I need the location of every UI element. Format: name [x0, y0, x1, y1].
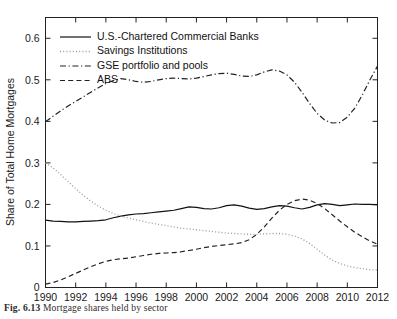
y-tick-label: 0.2 [25, 198, 40, 210]
y-tick-label: 0.5 [25, 74, 40, 86]
series-line [46, 66, 378, 123]
x-axis-ticks [46, 18, 378, 288]
figure-caption-label: Fig. 6.13 [4, 303, 40, 313]
figure-container: 00.10.20.30.40.50.6 19901992199419961998… [0, 0, 397, 319]
legend-label: Savings Institutions [97, 44, 187, 56]
x-axis-tick-labels: 1990199219941996199820002002200420062008… [34, 291, 390, 303]
x-tick-label: 1990 [34, 291, 58, 303]
legend-label: U.S.-Chartered Commercial Banks [97, 30, 259, 42]
x-tick-label: 1992 [64, 291, 88, 303]
series-line [46, 204, 378, 222]
x-tick-label: 2002 [215, 291, 239, 303]
line-chart: 00.10.20.30.40.50.6 19901992199419961998… [0, 0, 397, 319]
x-tick-label: 1994 [94, 291, 118, 303]
series-line [46, 163, 378, 270]
chart-legend: U.S.-Chartered Commercial BanksSavings I… [60, 30, 259, 86]
x-tick-label: 2004 [245, 291, 269, 303]
series-line [46, 199, 378, 284]
figure-caption-text: Mortgage shares held by sector [43, 303, 168, 313]
y-tick-label: 0.4 [25, 115, 40, 127]
y-axis-tick-labels: 00.10.20.30.40.50.6 [25, 32, 40, 293]
x-tick-label: 2008 [305, 291, 329, 303]
x-tick-label: 1996 [124, 291, 148, 303]
x-tick-label: 2010 [336, 291, 360, 303]
y-axis-title: Share of Total Home Mortgages [4, 78, 16, 226]
legend-label: ABS [97, 73, 118, 85]
legend-label: GSE portfolio and pools [97, 59, 208, 71]
y-tick-label: 0.6 [25, 32, 40, 44]
x-tick-label: 2012 [366, 291, 390, 303]
x-tick-label: 2006 [275, 291, 299, 303]
x-tick-label: 2000 [185, 291, 209, 303]
x-tick-label: 1998 [155, 291, 179, 303]
plot-frame [46, 18, 378, 288]
data-series-group [46, 66, 378, 284]
figure-caption: Fig. 6.13 Mortgage shares held by sector [4, 303, 168, 313]
y-tick-label: 0.1 [25, 240, 40, 252]
y-tick-label: 0.3 [25, 157, 40, 169]
y-axis-ticks [46, 38, 378, 287]
